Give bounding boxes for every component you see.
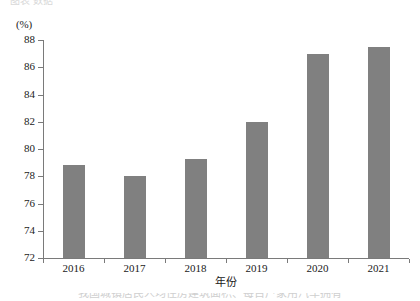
x-tick-label-2021: 2021: [368, 262, 390, 275]
x-tick-label-2017: 2017: [124, 262, 146, 275]
x-axis-tick-labels: 201620172018201920202021: [43, 262, 409, 276]
top-caption-text: 图表 数据: [10, 0, 53, 6]
bar-2016[interactable]: [63, 165, 85, 258]
top-caption-fragment: 图表 数据: [10, 0, 210, 7]
y-tick-label-86: 86: [24, 60, 35, 73]
bottom-caption-text: 我国城镇居民人均住房建筑面积、每百户家用汽车拥有: [78, 293, 342, 300]
bar-2021[interactable]: [368, 47, 390, 258]
bar-2017[interactable]: [124, 176, 146, 258]
bottom-caption-fragment: 我国城镇居民人均住房建筑面积、每百户家用汽车拥有: [0, 293, 420, 301]
y-tick-label-88: 88: [24, 33, 35, 46]
y-tick-label-74: 74: [24, 224, 35, 237]
plot-area: 727476788082848688: [43, 40, 409, 258]
x-tick-label-2018: 2018: [185, 262, 207, 275]
bar-series: [43, 40, 409, 258]
y-tick-label-78: 78: [24, 169, 35, 182]
bar-2018[interactable]: [185, 159, 207, 258]
y-tick-label-72: 72: [24, 251, 35, 264]
x-tick-label-2020: 2020: [307, 262, 329, 275]
y-tick-label-84: 84: [24, 88, 35, 101]
y-tick-label-76: 76: [24, 197, 35, 210]
y-tick-label-82: 82: [24, 115, 35, 128]
x-tick-label-2019: 2019: [246, 262, 268, 275]
y-tick-label-80: 80: [24, 142, 35, 155]
x-tick-label-2016: 2016: [63, 262, 85, 275]
x-axis-title: 年份: [43, 276, 409, 289]
x-tick-6: [409, 259, 410, 263]
figure-container: 图表 数据 (%) 727476788082848688 20162017201…: [0, 0, 420, 301]
y-axis-unit-label: (%): [16, 18, 32, 30]
bar-2019[interactable]: [246, 122, 268, 258]
bar-2020[interactable]: [307, 54, 329, 258]
